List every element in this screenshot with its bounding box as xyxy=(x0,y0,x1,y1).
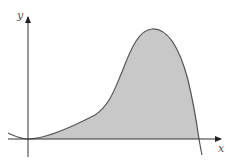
y-axis-label: y xyxy=(17,9,23,22)
plot-svg xyxy=(0,0,231,164)
x-axis-label: x xyxy=(218,142,224,155)
shaded-area xyxy=(28,29,199,139)
figure: y x xyxy=(0,0,231,164)
